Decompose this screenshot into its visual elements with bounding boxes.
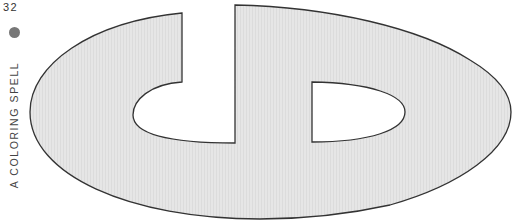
ellipse-shape bbox=[30, 5, 511, 219]
coloring-figure bbox=[0, 0, 515, 221]
